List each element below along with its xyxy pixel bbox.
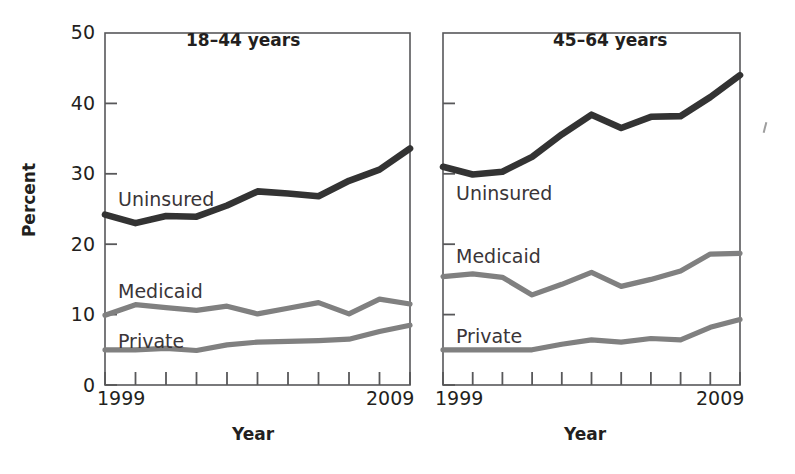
- x-tick-label-first-right: 1999: [435, 387, 483, 409]
- panel-title-45-64: 45–64 years: [553, 30, 667, 50]
- figure-canvas: 18–44 years 0 10 20 30 40 50 1999 2009 P…: [0, 0, 795, 474]
- y-tick-label-30: 30: [51, 162, 95, 184]
- y-tick-label-40: 40: [51, 92, 95, 114]
- series-label-uninsured-right: Uninsured: [456, 182, 552, 204]
- series-label-medicaid-right: Medicaid: [456, 245, 541, 267]
- x-axis-title-right: Year: [564, 424, 606, 444]
- x-tick-label-last-right: 2009: [696, 387, 744, 409]
- x-tick-label-last-left: 2009: [366, 387, 414, 409]
- series-label-private-left: Private: [118, 330, 184, 352]
- series-label-uninsured-left: Uninsured: [118, 188, 214, 210]
- y-tick-label-10: 10: [51, 303, 95, 325]
- series-label-private-right: Private: [456, 325, 522, 347]
- series-label-medicaid-left: Medicaid: [118, 280, 203, 302]
- y-tick-label-0: 0: [51, 374, 95, 396]
- chart-panel-45-64: 45–64 years 1999 2009 Year Uninsured Med…: [430, 0, 795, 474]
- y-axis-title: Percent: [19, 162, 39, 238]
- panel-title-18-44: 18–44 years: [186, 30, 300, 50]
- x-tick-label-first-left: 1999: [97, 387, 145, 409]
- x-axis-title-left: Year: [232, 424, 274, 444]
- chart-panel-18-44: 18–44 years 0 10 20 30 40 50 1999 2009 P…: [0, 0, 430, 474]
- y-tick-label-20: 20: [51, 233, 95, 255]
- y-tick-label-50: 50: [51, 21, 95, 43]
